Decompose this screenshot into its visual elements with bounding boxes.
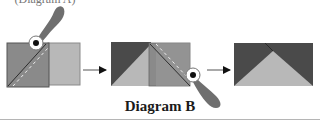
diagram-caption: Diagram B <box>0 98 320 115</box>
light-fabric-rect <box>48 43 80 85</box>
step-1-panel <box>7 6 80 87</box>
step-3-panel <box>234 43 313 86</box>
divider-line <box>0 119 320 120</box>
diagram-stage: (Diagram A) <box>0 0 320 121</box>
